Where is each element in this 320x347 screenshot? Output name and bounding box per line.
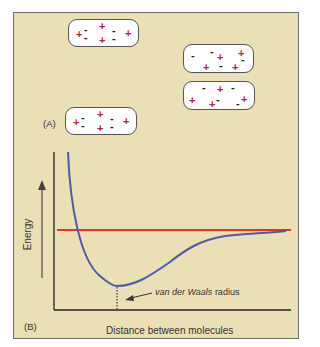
annotation-italic: van der Waals	[155, 287, 212, 297]
annotation-arrow-shaft	[131, 293, 152, 298]
y-axis-label-text: Energy	[22, 219, 33, 251]
x-axis-label: Distance between molecules	[106, 325, 233, 336]
y-axis-label: Energy	[22, 219, 33, 251]
panel-b-label: (B)	[24, 321, 37, 332]
van-der-waals-annotation: van der Waals radius	[155, 287, 239, 297]
potential-energy-curve	[68, 152, 286, 286]
energy-arrow-head-icon	[38, 180, 46, 190]
annotation-arrow-head-icon	[125, 295, 134, 301]
annotation-rest: radius	[212, 287, 239, 297]
